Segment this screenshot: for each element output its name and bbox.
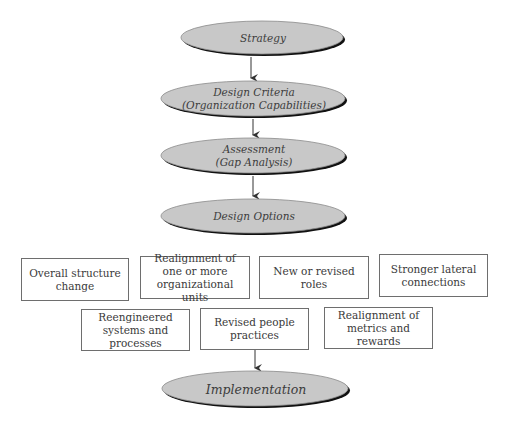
design-criteria-label: Design Criteria (Organization Capabiliti… xyxy=(182,86,326,112)
design-options-node: Design Options xyxy=(160,197,348,236)
option-roles: New or revised roles xyxy=(259,256,369,299)
option-overall-structure: Overall structure change xyxy=(21,258,129,301)
option-realign-units: Realignment of one or more organizationa… xyxy=(140,256,250,299)
strategy-node: Strategy xyxy=(180,19,346,57)
design-options-label: Design Options xyxy=(213,210,295,223)
design-criteria-node: Design Criteria (Organization Capabiliti… xyxy=(160,79,348,119)
strategy-label: Strategy xyxy=(240,32,286,45)
assessment-label: Assessment (Gap Analysis) xyxy=(216,143,293,169)
assessment-node: Assessment (Gap Analysis) xyxy=(160,136,348,176)
option-people-practices: Revised people practices xyxy=(200,308,309,350)
implementation-node: Implementation xyxy=(161,369,351,409)
implementation-label: Implementation xyxy=(206,383,307,396)
option-lateral-connections: Stronger lateral connections xyxy=(379,254,488,297)
option-reengineered-systems: Reengineered systems and processes xyxy=(81,309,190,351)
option-metrics-rewards: Realignment of metrics and rewards xyxy=(324,307,433,349)
